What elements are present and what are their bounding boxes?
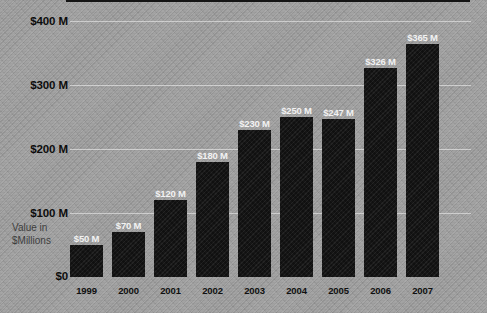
bar-2007[interactable]	[406, 44, 439, 277]
bar-label-2003: $230 M	[232, 118, 277, 129]
x-axis-tick-2001: 2001	[148, 285, 193, 296]
chart-plot-area: $400 M $300 M $200 M $100 M $0 Value in …	[0, 0, 487, 313]
x-axis-tick-2007: 2007	[400, 285, 445, 296]
bar-label-2001: $120 M	[148, 188, 193, 199]
x-axis-tick-2003: 2003	[232, 285, 277, 296]
x-axis-tick-1999: 1999	[64, 285, 109, 296]
chart-screenshot: $400 M $300 M $200 M $100 M $0 Value in …	[0, 0, 487, 325]
bar-label-2007: $365 M	[400, 32, 445, 43]
gridline-400	[70, 21, 471, 22]
bar-2006[interactable]	[364, 68, 397, 277]
bar-label-2000: $70 M	[106, 220, 151, 231]
bottom-margin-strip	[0, 313, 487, 325]
y-axis-tick-200: $200 M	[0, 143, 68, 155]
x-axis-tick-2006: 2006	[358, 285, 403, 296]
bar-1999[interactable]	[70, 245, 103, 277]
bar-2001[interactable]	[154, 200, 187, 277]
bar-2000[interactable]	[112, 232, 145, 277]
bar-label-2006: $326 M	[358, 56, 403, 67]
x-axis-tick-2002: 2002	[190, 285, 235, 296]
bar-label-1999: $50 M	[64, 233, 109, 244]
y-axis-tick-0: $0	[0, 270, 68, 282]
y-axis-tick-300: $300 M	[0, 79, 68, 91]
bar-label-2005: $247 M	[316, 107, 361, 118]
y-axis-title: Value in $Millions	[12, 222, 66, 247]
y-axis-tick-400: $400 M	[0, 15, 68, 27]
bar-2004[interactable]	[280, 117, 313, 277]
x-axis-tick-2000: 2000	[106, 285, 151, 296]
bar-label-2004: $250 M	[274, 105, 319, 116]
x-axis-tick-2004: 2004	[274, 285, 319, 296]
bar-2002[interactable]	[196, 162, 229, 277]
x-axis-tick-2005: 2005	[316, 285, 361, 296]
bar-label-2002: $180 M	[190, 150, 235, 161]
x-axis-line	[66, 0, 470, 2]
y-axis-tick-100: $100 M	[0, 207, 68, 219]
bar-2005[interactable]	[322, 119, 355, 277]
bar-2003[interactable]	[238, 130, 271, 277]
